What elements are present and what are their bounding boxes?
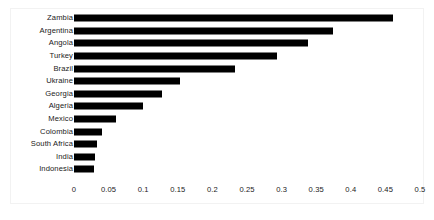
bar — [74, 103, 143, 110]
bar-row: Georgia — [0, 88, 434, 101]
x-tick-label: 0.05 — [101, 186, 116, 194]
bar-row: Angola — [0, 37, 434, 50]
bar-row: Argentina — [0, 25, 434, 38]
bar-row: Brazil — [0, 62, 434, 75]
category-label: Zambia — [47, 15, 73, 23]
bar-row: Ukraine — [0, 75, 434, 88]
bar-row: Turkey — [0, 50, 434, 63]
bar — [74, 65, 235, 72]
category-label: India — [56, 153, 73, 161]
x-tick-label: 0 — [72, 186, 76, 194]
bar-row: Colombia — [0, 125, 434, 138]
bar-chart: ZambiaArgentinaAngolaTurkeyBrazilUkraine… — [0, 0, 434, 220]
bar — [74, 153, 95, 160]
category-label: Mexico — [48, 115, 73, 123]
bar — [74, 27, 333, 34]
x-tick-label: 0.2 — [207, 186, 218, 194]
bar — [74, 116, 116, 123]
x-tick-label: 0.4 — [345, 186, 356, 194]
bar-row: South Africa — [0, 138, 434, 151]
bar — [74, 166, 94, 173]
category-label: Brazil — [53, 65, 73, 73]
x-axis: 00.050.10.150.20.250.30.350.40.450.5 — [0, 186, 434, 200]
category-label: Colombia — [40, 128, 73, 136]
category-label: Algeria — [49, 103, 73, 111]
x-tick-label: 0.5 — [415, 186, 426, 194]
bar — [74, 128, 102, 135]
category-label: South Africa — [31, 141, 73, 149]
category-label: Georgia — [45, 90, 73, 98]
category-label: Indonesia — [39, 166, 73, 174]
category-label: Ukraine — [46, 78, 73, 86]
bar-row: Algeria — [0, 100, 434, 113]
x-tick-label: 0.45 — [378, 186, 393, 194]
bar — [74, 53, 277, 60]
category-label: Argentina — [40, 27, 73, 35]
bar-row: Indonesia — [0, 163, 434, 176]
x-tick-label: 0.1 — [138, 186, 149, 194]
bar — [74, 78, 180, 85]
category-label: Turkey — [49, 52, 73, 60]
bar-row: Mexico — [0, 113, 434, 126]
x-tick-label: 0.35 — [309, 186, 324, 194]
bar — [74, 90, 162, 97]
bar-row: India — [0, 151, 434, 164]
x-tick-label: 0.3 — [276, 186, 287, 194]
bar — [74, 15, 393, 22]
x-tick-label: 0.15 — [170, 186, 185, 194]
bar — [74, 40, 308, 47]
category-label: Angola — [49, 40, 73, 48]
bar-row: Zambia — [0, 12, 434, 25]
x-tick-label: 0.25 — [239, 186, 254, 194]
bar — [74, 141, 97, 148]
